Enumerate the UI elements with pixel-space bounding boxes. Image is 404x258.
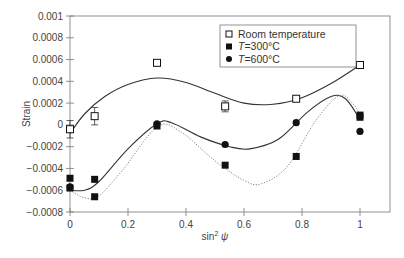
data-point bbox=[66, 183, 73, 190]
data-point bbox=[91, 113, 98, 120]
data-point bbox=[222, 162, 229, 169]
data-point bbox=[67, 175, 74, 182]
y-axis-label: Strain bbox=[21, 101, 32, 127]
data-point bbox=[293, 119, 300, 126]
x-axis-label: sin2 ψ bbox=[202, 230, 229, 242]
y-tick-label: 0.0002 bbox=[32, 98, 63, 109]
data-point bbox=[293, 95, 300, 102]
data-markers bbox=[66, 59, 363, 200]
y-tick-label: 0 bbox=[57, 119, 63, 130]
y-tick-label: 0.0006 bbox=[32, 54, 63, 65]
data-point bbox=[357, 112, 364, 119]
data-point bbox=[222, 103, 229, 110]
legend-label: T=300°C bbox=[238, 40, 280, 52]
legend-label: T=600°C bbox=[238, 53, 280, 65]
data-point bbox=[222, 141, 229, 148]
legend-filled-circle-icon bbox=[226, 56, 232, 62]
y-tick-label: −0.0008 bbox=[27, 207, 64, 218]
legend-filled-square-icon bbox=[226, 44, 232, 50]
y-tick-label: 0.0008 bbox=[32, 32, 63, 43]
data-point bbox=[293, 153, 300, 160]
x-tick-label: 1 bbox=[357, 219, 363, 230]
y-tick-label: 0.001 bbox=[38, 11, 63, 22]
legend-label: Room temperature bbox=[238, 28, 326, 40]
data-point bbox=[357, 62, 364, 69]
legend: Room temperatureT=300°CT=600°C bbox=[220, 25, 356, 67]
data-point bbox=[356, 128, 363, 135]
x-tick-label: 0 bbox=[67, 219, 73, 230]
data-point bbox=[91, 176, 98, 183]
x-axis: 00.20.40.60.81 bbox=[67, 208, 363, 230]
x-tick-label: 0.6 bbox=[237, 219, 251, 230]
y-tick-label: −0.0004 bbox=[27, 163, 64, 174]
strain-chart: 0.0010.00080.00060.00040.00020−0.0002−0.… bbox=[0, 0, 404, 258]
y-tick-label: 0.0004 bbox=[32, 76, 63, 87]
t300-fit-line bbox=[70, 95, 360, 199]
y-tick-label: −0.0006 bbox=[27, 185, 64, 196]
data-point bbox=[153, 120, 160, 127]
data-point bbox=[67, 126, 74, 133]
t600-fit-line bbox=[70, 95, 360, 191]
x-tick-label: 0.4 bbox=[179, 219, 193, 230]
y-tick-label: −0.0002 bbox=[27, 141, 64, 152]
legend-open-square-icon bbox=[226, 31, 232, 37]
room-temperature-fit-line bbox=[70, 65, 360, 134]
data-point bbox=[154, 59, 161, 66]
fit-curves bbox=[70, 65, 360, 199]
x-tick-label: 0.2 bbox=[121, 219, 135, 230]
x-tick-label: 0.8 bbox=[295, 219, 309, 230]
data-point bbox=[91, 193, 98, 200]
